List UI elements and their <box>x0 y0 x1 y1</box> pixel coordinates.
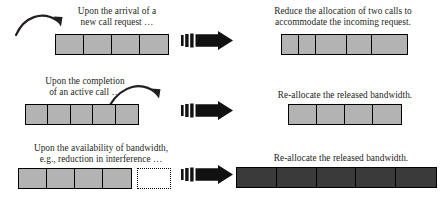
bandwidth-cell <box>289 105 317 124</box>
bandwidth-bar-before-availability <box>18 168 132 189</box>
bandwidth-cell <box>317 168 357 187</box>
bandwidth-cell <box>71 105 93 124</box>
block-arrow-icon-completion <box>181 101 233 120</box>
bandwidth-bar-before-completion <box>25 104 139 125</box>
bandwidth-cell <box>103 169 131 188</box>
bandwidth-cell <box>372 35 406 54</box>
caption-reallocate-availability: Re-allocate the released bandwidth. <box>243 153 439 164</box>
bandwidth-cell <box>116 105 138 124</box>
bandwidth-cell <box>299 35 316 54</box>
bandwidth-cell <box>373 105 401 124</box>
bandwidth-cell <box>140 35 168 54</box>
bandwidth-cell <box>282 35 299 54</box>
bandwidth-cell <box>347 35 372 54</box>
bandwidth-cell <box>316 35 347 54</box>
bandwidth-bar-after-arrival <box>281 34 408 55</box>
bandwidth-cell <box>56 35 84 54</box>
bandwidth-bar-after-completion <box>288 104 402 125</box>
block-arrow-icon-availability <box>181 165 233 184</box>
caption-arrival: Upon the arrival of a new call request … <box>55 6 179 29</box>
bandwidth-cell <box>237 168 277 187</box>
bandwidth-cell <box>47 169 75 188</box>
caption-availability: Upon the availability of bandwidth, e.g.… <box>12 143 190 166</box>
bandwidth-cell <box>356 168 396 187</box>
bandwidth-cell <box>84 35 112 54</box>
bandwidth-bar-after-availability <box>236 167 437 188</box>
bandwidth-cell <box>317 105 345 124</box>
caption-reduce-allocation: Reduce the allocation of two calls to ac… <box>243 6 443 29</box>
caption-reallocate-completion: Re-allocate the released bandwidth. <box>253 90 437 101</box>
bandwidth-cell <box>396 168 436 187</box>
bandwidth-cell <box>277 168 317 187</box>
bandwidth-cell <box>19 169 47 188</box>
diagram-canvas: Upon the arrival of a new call request …… <box>0 0 446 207</box>
free-bandwidth-dotted-box <box>137 168 171 189</box>
bandwidth-cell <box>93 105 115 124</box>
bandwidth-cell <box>345 105 373 124</box>
bandwidth-bar-before-arrival <box>55 34 169 55</box>
bandwidth-cell <box>48 105 70 124</box>
bandwidth-cell <box>26 105 48 124</box>
block-arrow-icon-arrival <box>181 31 233 50</box>
bandwidth-cell <box>112 35 140 54</box>
bandwidth-cell <box>75 169 103 188</box>
